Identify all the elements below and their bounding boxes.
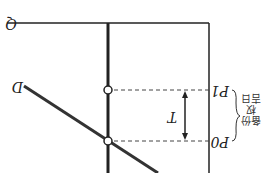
demand-curve xyxy=(24,86,158,173)
price-label-p0: P0 xyxy=(211,134,229,150)
diagram-canvas: Q D T P1 P0 备份权 吉日 xyxy=(0,0,263,173)
bracket-text: 备份权 吉日 xyxy=(239,93,263,126)
rotated-diagram: Q D T P1 P0 备份权 吉日 xyxy=(0,0,263,173)
point-p1 xyxy=(104,86,112,94)
curve-label-d: D xyxy=(12,79,23,95)
price-label-p1: P1 xyxy=(211,83,229,99)
axis-label-q: Q xyxy=(6,16,17,32)
point-p0 xyxy=(104,137,112,145)
tax-label-t: T xyxy=(168,109,177,125)
